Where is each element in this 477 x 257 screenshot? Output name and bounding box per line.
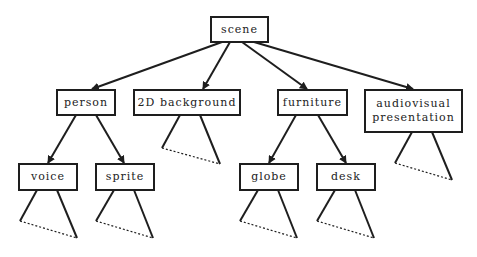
subtree-triangle-globe xyxy=(240,190,297,238)
edge-furniture-globe xyxy=(269,115,296,163)
subtree-triangle-av xyxy=(395,132,452,180)
node-voice: voice xyxy=(18,163,78,191)
node-label: voice xyxy=(31,170,65,184)
node-desk: desk xyxy=(316,163,376,191)
node-furniture: furniture xyxy=(277,89,348,116)
subtree-triangle-background xyxy=(162,115,220,164)
edge-furniture-desk xyxy=(318,115,346,163)
node-label-line2: presentation xyxy=(372,111,455,125)
node-person: person xyxy=(56,89,116,116)
node-audiovisual-presentation: audiovisual presentation xyxy=(364,89,463,133)
node-label: furniture xyxy=(283,96,342,110)
edge-scene-av xyxy=(254,42,413,89)
node-label: globe xyxy=(251,170,287,184)
subtree-triangle-sprite xyxy=(96,190,153,238)
scene-graph-diagram: scene person 2D background furniture aud… xyxy=(0,0,477,257)
node-sprite: sprite xyxy=(95,163,155,191)
node-globe: globe xyxy=(239,163,299,191)
node-label: person xyxy=(64,96,108,110)
edge-person-sprite xyxy=(96,115,124,163)
collapsed-subtrees xyxy=(20,115,452,238)
edge-scene-person xyxy=(92,42,222,89)
node-label: sprite xyxy=(106,170,144,184)
node-label-line1: audiovisual xyxy=(376,97,450,111)
node-label: scene xyxy=(221,23,258,37)
node-scene: scene xyxy=(210,16,269,43)
node-2d-background: 2D background xyxy=(133,89,241,116)
node-label: 2D background xyxy=(138,96,237,110)
subtree-triangle-desk xyxy=(317,190,374,238)
edge-person-voice xyxy=(48,115,76,163)
edge-scene-background xyxy=(203,42,230,89)
node-label: desk xyxy=(331,170,361,184)
subtree-triangle-voice xyxy=(20,190,77,238)
